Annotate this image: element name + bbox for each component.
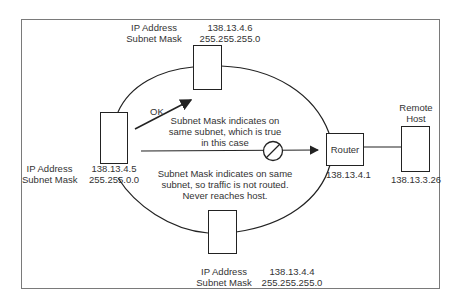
note-line: Never reaches host. (150, 190, 300, 201)
bottom-mask-label: Subnet Mask (196, 277, 252, 288)
remote-host-ip: 138.13.3.26 (389, 174, 443, 185)
bottom-ip-label: IP Address (196, 266, 252, 277)
left-mask-label: Subnet Mask (22, 174, 77, 185)
router-ip: 138.13.4.1 (326, 169, 370, 180)
left-host-values: 138.13.4.5 255.255.0.0 (86, 163, 142, 185)
note-line: same subnet, which is true (160, 126, 290, 137)
left-host-field-labels: IP Address Subnet Mask (22, 163, 77, 185)
top-ip-label: IP Address (124, 22, 184, 33)
note-line: in this case (160, 137, 290, 148)
left-ip-label: IP Address (22, 163, 77, 174)
remote-host-box[interactable] (401, 126, 430, 172)
blocked-arrow (141, 150, 318, 151)
same-subnet-note: Subnet Mask indicates on same subnet, wh… (160, 115, 290, 148)
note-line: subnet, so traffic is not routed. (150, 179, 300, 190)
router-label: Router (326, 144, 364, 155)
bottom-mask-value: 255.255.255.0 (260, 277, 324, 288)
bottom-host-field-labels: IP Address Subnet Mask (196, 266, 252, 288)
connection-lines (0, 0, 457, 304)
top-mask-label: Subnet Mask (124, 33, 184, 44)
top-host-field-labels: IP Address Subnet Mask (124, 22, 184, 44)
note-line: Subnet Mask indicates on same (150, 168, 300, 179)
top-ip-value: 138.13.4.6 (190, 22, 270, 33)
left-ip-value: 138.13.4.5 (86, 163, 142, 174)
host-top-box[interactable] (193, 45, 222, 90)
remote-label-line1: Remote (396, 102, 436, 113)
top-mask-value: 255.255.255.0 (190, 33, 270, 44)
host-bottom-box[interactable] (208, 210, 237, 254)
bottom-ip-value: 138.13.4.4 (260, 266, 324, 277)
left-mask-value: 255.255.0.0 (86, 174, 142, 185)
remote-label-line2: Host (396, 113, 436, 124)
top-host-values: 138.13.4.6 255.255.255.0 (190, 22, 270, 44)
note-line: Subnet Mask indicates on (160, 115, 290, 126)
not-routed-note: Subnet Mask indicates on same subnet, so… (150, 168, 300, 201)
bottom-host-values: 138.13.4.4 255.255.255.0 (260, 266, 324, 288)
host-left-box[interactable] (100, 112, 128, 164)
remote-host-label: Remote Host (396, 102, 436, 124)
